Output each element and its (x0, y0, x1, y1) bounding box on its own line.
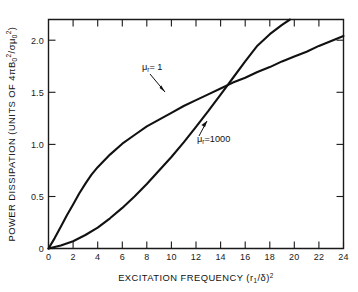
x-axis-tick-labels: 0 2 4 6 8 10 12 14 16 18 20 22 24 (46, 252, 349, 262)
svg-text:EXCITATION FREQUENCY (r1/δ)2: EXCITATION FREQUENCY (r1/δ)2 (118, 272, 274, 285)
y-axis-title: POWER DISSIPATION (UNITS OF 4πB02/σμ02) (5, 27, 18, 242)
x-tick-label: 20 (289, 252, 299, 262)
y-axis-tick-labels: 0 0.5 1.0 1.5 2.0 (31, 36, 44, 254)
x-tick-label: 14 (215, 252, 225, 262)
y-tick-label: 1.0 (31, 140, 44, 150)
annotation-mu-r-1: μr= 1 (142, 62, 165, 92)
y-axis-ticks-right (337, 40, 344, 196)
annotation-mu-r-1000: μr=1000 (197, 121, 230, 145)
x-axis-ticks-bottom (49, 242, 344, 249)
y-tick-label: 0 (39, 244, 44, 254)
x-axis-title: EXCITATION FREQUENCY (r1/δ)2 (118, 272, 274, 285)
annotation-label-mu-r-1000: μr=1000 (197, 134, 230, 145)
x-tick-label: 18 (265, 252, 275, 262)
arrowhead-mu-r-1000 (201, 121, 207, 127)
y-axis-ticks-left (49, 40, 56, 248)
x-tick-label: 2 (70, 252, 75, 262)
y-tick-label: 0.5 (31, 192, 44, 202)
x-tick-label: 10 (166, 252, 176, 262)
svg-text:POWER DISSIPATION (UNITS OF 4π: POWER DISSIPATION (UNITS OF 4πB02/σμ02) (5, 27, 18, 242)
chart-svg: 0 2 4 6 8 10 12 14 16 18 20 22 24 0 0.5 … (0, 0, 358, 292)
figure-container: 0 2 4 6 8 10 12 14 16 18 20 22 24 0 0.5 … (0, 0, 358, 292)
annotation-label-mu-r-1: μr= 1 (142, 62, 162, 73)
y-tick-label: 1.5 (31, 88, 44, 98)
x-tick-label: 22 (314, 252, 324, 262)
x-tick-label: 16 (240, 252, 250, 262)
x-tick-label: 8 (144, 252, 149, 262)
x-tick-label: 4 (95, 252, 100, 262)
curve-mu-r-1000 (49, 20, 291, 249)
x-tick-label: 12 (191, 252, 201, 262)
y-tick-label: 2.0 (31, 36, 44, 46)
curve-mu-r-1 (49, 36, 344, 249)
x-tick-label: 24 (338, 252, 348, 262)
x-tick-label: 6 (120, 252, 125, 262)
x-tick-label: 0 (46, 252, 51, 262)
